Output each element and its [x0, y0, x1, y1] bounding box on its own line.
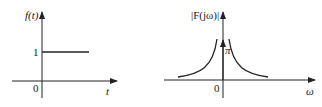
right-plot: |F(jω)| π 0 ω — [164, 9, 315, 98]
right-origin-label: 0 — [214, 82, 220, 94]
impulse-label: π — [225, 44, 231, 56]
left-origin-label: 0 — [33, 82, 39, 94]
left-y-label: f(t) — [25, 9, 39, 22]
right-x-label: ω — [306, 85, 314, 97]
left-x-label: t — [106, 85, 110, 97]
right-y-label: |F(jω)| — [191, 9, 219, 22]
right-branch-curve — [229, 39, 268, 77]
figure: f(t) 1 0 t |F(jω)| π 0 ω — [0, 0, 322, 107]
left-branch-curve — [178, 39, 217, 77]
left-plot: f(t) 1 0 t — [12, 9, 117, 98]
left-level-label: 1 — [33, 46, 39, 58]
